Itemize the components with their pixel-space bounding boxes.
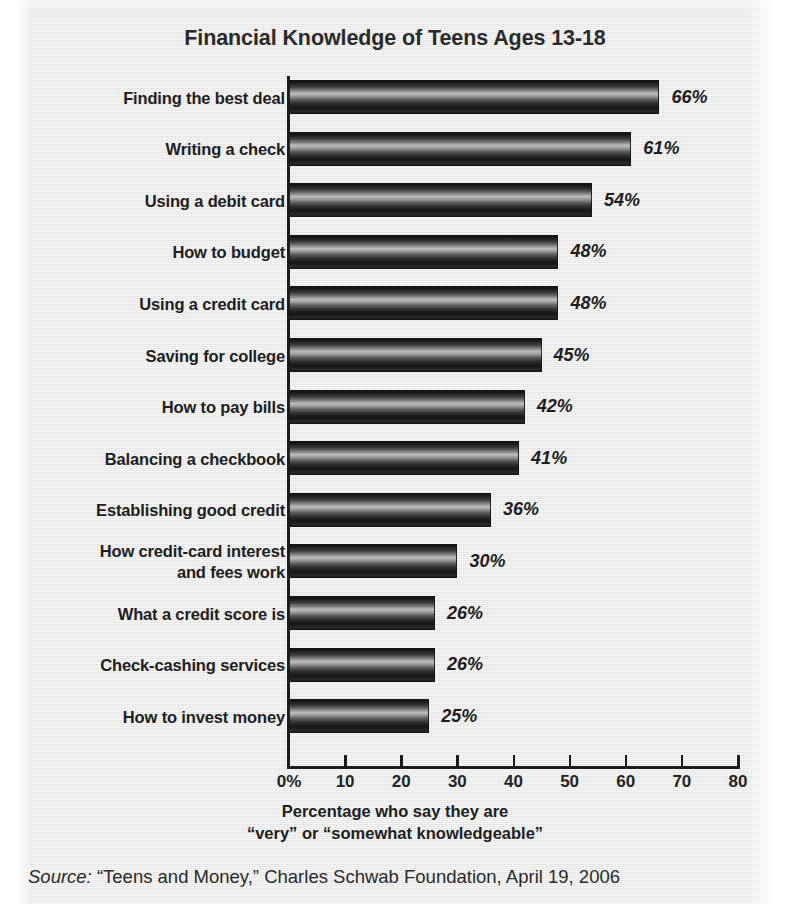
bar-category-label: Using a debit card [15,191,285,212]
x-axis-tick-label: 10 [336,772,355,792]
bar-category-label-line-1: Using a debit card [15,191,285,212]
x-axis-tick-label: 70 [672,772,691,792]
bar-category-label: Writing a check [15,139,285,160]
bar-value-label: 26% [447,603,483,624]
bar-category-label-line-1: What a credit score is [15,604,285,625]
bar-value-label: 30% [469,551,505,572]
bar-category-label-line-1: Using a credit card [15,294,285,315]
bar [289,183,592,217]
x-axis-tick [681,755,684,767]
x-axis-tick-label: 50 [560,772,579,792]
bar-category-label-line-1: Finding the best deal [15,88,285,109]
bar [289,493,491,527]
x-axis-tick-label: 0% [277,772,302,792]
bar-row: How to pay bills42% [0,390,786,442]
bar-value-label: 48% [570,293,606,314]
x-axis-tick-label: 80 [729,772,748,792]
x-axis-tick [456,755,459,767]
bar-category-label: How credit-card interestand fees work [15,541,285,583]
bar [289,544,457,578]
bar-category-label-line-1: Establishing good credit [15,500,285,521]
bar [289,596,435,630]
bar-value-label: 41% [531,448,567,469]
x-axis-tick [513,755,516,767]
bar-category-label: Balancing a checkbook [15,449,285,470]
x-axis-tick [569,755,572,767]
bar-category-label-line-1: How to invest money [15,707,285,728]
bar-category-label: Using a credit card [15,294,285,315]
bar-category-label: Finding the best deal [15,88,285,109]
bar-category-label-line-1: How to pay bills [15,397,285,418]
x-axis-tick [737,755,740,767]
bar-row: Establishing good credit36% [0,493,786,545]
bar-row: Check-cashing services26% [0,648,786,700]
source-text: “Teens and Money,” Charles Schwab Founda… [92,866,620,887]
x-axis-tick-label: 30 [448,772,467,792]
bar-row: Balancing a checkbook41% [0,441,786,493]
bar-row: Writing a check61% [0,132,786,184]
bar-row: Finding the best deal66% [0,80,786,132]
bar-category-label-line-1: Saving for college [15,346,285,367]
plot-area: Finding the best deal66%Writing a check6… [0,0,786,904]
bar-row: Saving for college45% [0,338,786,390]
x-axis-tick [625,755,628,767]
bar-category-label: How to pay bills [15,397,285,418]
bar-category-label-line-1: How to budget [15,242,285,263]
bar-value-label: 26% [447,654,483,675]
bar-value-label: 48% [570,241,606,262]
bar [289,235,558,269]
chart-page: Financial Knowledge of Teens Ages 13-18 … [0,0,786,904]
bar-row: What a credit score is26% [0,596,786,648]
bar-value-label: 45% [554,345,590,366]
bar [289,648,435,682]
bar-value-label: 61% [643,138,679,159]
bar [289,390,525,424]
x-axis-tick-label: 20 [392,772,411,792]
bar-category-label-line-1: Check-cashing services [15,655,285,676]
x-axis-caption-line2: “very” or “somewhat knowledgeable” [18,822,772,844]
x-axis-tick [344,755,347,767]
bar [289,286,558,320]
bar-category-label: What a credit score is [15,604,285,625]
x-axis-tick-label: 60 [616,772,635,792]
x-axis-tick [400,755,403,767]
x-axis-caption: Percentage who say they are “very” or “s… [18,800,772,844]
bar-category-label-line-1: Writing a check [15,139,285,160]
bar [289,80,659,114]
bar-row: Using a debit card54% [0,183,786,235]
bar-row: How credit-card interestand fees work30% [0,544,786,596]
bar-row: Using a credit card48% [0,286,786,338]
bar-value-label: 36% [503,499,539,520]
bar-row: How to budget48% [0,235,786,287]
bar-value-label: 42% [537,396,573,417]
x-axis-caption-line1: Percentage who say they are [18,800,772,822]
bar-value-label: 25% [441,706,477,727]
bar-category-label-line-2: and fees work [15,562,285,583]
bar-value-label: 54% [604,190,640,211]
bar-value-label: 66% [671,87,707,108]
bar-category-label: How to budget [15,242,285,263]
bar [289,338,542,372]
source-prefix: Source: [28,866,92,887]
bar [289,132,631,166]
bar-category-label-line-1: Balancing a checkbook [15,449,285,470]
x-axis-tick-label: 40 [504,772,523,792]
bar-category-label: How to invest money [15,707,285,728]
bar-category-label: Establishing good credit [15,500,285,521]
bar [289,699,429,733]
bar-category-label: Check-cashing services [15,655,285,676]
bar-category-label: Saving for college [15,346,285,367]
bar [289,441,519,475]
bar-category-label-line-1: How credit-card interest [15,541,285,562]
bar-row: How to invest money25% [0,699,786,751]
source-note: Source: “Teens and Money,” Charles Schwa… [28,866,620,888]
